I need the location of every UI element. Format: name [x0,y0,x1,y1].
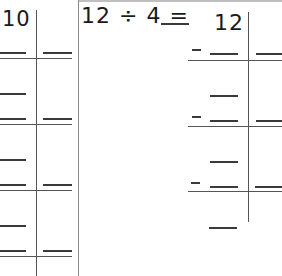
answer-blank[interactable] [210,95,238,97]
answer-blank[interactable] [43,184,72,186]
subtraction-rule [0,190,72,191]
answer-blank[interactable] [43,52,72,54]
subtraction-rule [0,124,72,125]
minus-sign [192,49,201,51]
answer-blank[interactable] [210,161,238,163]
left-dividend-label: 10 [2,9,31,30]
subtraction-rule [188,126,282,127]
right-dividend-label: 12 [214,12,244,33]
panel-boundary [78,0,79,276]
answer-blank[interactable] [43,118,72,120]
answer-blank[interactable] [0,225,26,227]
answer-blank[interactable] [209,227,237,229]
answer-blank[interactable] [0,250,26,252]
subtraction-rule [188,60,282,61]
answer-blank[interactable] [0,118,26,120]
answer-blank[interactable] [255,186,282,188]
minus-sign [191,182,200,184]
answer-blank[interactable] [0,52,26,54]
answer-blank[interactable] [210,120,238,122]
answer-blank[interactable] [256,53,282,55]
answer-blank[interactable] [256,120,282,122]
answer-blank[interactable] [0,93,26,95]
answer-blank[interactable] [0,159,26,161]
subtraction-rule [0,256,72,257]
minus-sign [192,116,201,118]
equation-answer-blank[interactable] [161,23,189,25]
subtraction-rule [0,58,72,59]
answer-blank[interactable] [210,53,238,55]
answer-blank[interactable] [43,250,72,252]
subtraction-rule [188,191,282,192]
page-top-border [78,0,282,2]
left-column-divider [36,10,37,276]
answer-blank[interactable] [0,184,26,186]
answer-blank[interactable] [210,186,238,188]
